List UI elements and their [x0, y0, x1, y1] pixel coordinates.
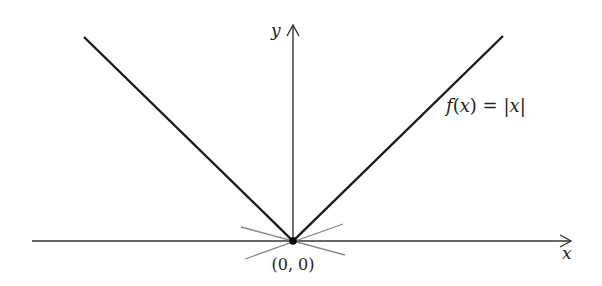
- origin-label: (0, 0): [271, 255, 314, 274]
- function-label-open: (: [453, 95, 460, 116]
- origin-point: [289, 237, 297, 245]
- function-label-close-eq: ) = |: [470, 95, 510, 117]
- absolute-value-figure: y x (0, 0) f(x) = |x|: [0, 0, 602, 286]
- function-label-bar: |: [520, 95, 526, 117]
- x-axis: [32, 235, 571, 247]
- function-label-x2: x: [509, 95, 519, 116]
- y-axis: [287, 25, 299, 241]
- y-axis-label: y: [270, 20, 281, 40]
- function-label: f(x) = |x|: [444, 95, 526, 117]
- function-label-x1: x: [460, 95, 470, 116]
- x-axis-label: x: [562, 243, 572, 263]
